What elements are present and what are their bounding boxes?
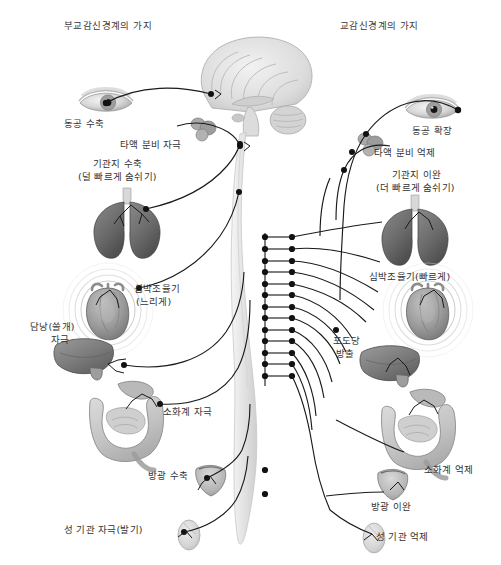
bladder-right-illustration bbox=[378, 469, 408, 500]
lungs-left-illustration bbox=[94, 188, 160, 258]
label-pupil-dilation: 동공 확장 bbox=[412, 125, 452, 138]
label-bronchi-relaxation-detail: (더 빠르게 숨쉬기) bbox=[376, 182, 455, 195]
label-bronchi-constriction-detail: (덜 빠르게 숨쉬기) bbox=[78, 171, 157, 184]
heading-sympathetic: 교감신경계의 가지 bbox=[340, 18, 419, 32]
label-bronchi-relaxation: 기관지 이완 bbox=[392, 169, 441, 182]
label-pacemaker-slow: 심박조율기 bbox=[134, 283, 180, 296]
label-sex-organ-stimulation: 성 기관 자극(발기) bbox=[64, 524, 143, 537]
label-gallbladder-stimulation: 담낭(쓸개) bbox=[30, 321, 75, 334]
label-pacemaker-slow-detail: (느리게) bbox=[136, 296, 171, 309]
label-salivation-stimulation: 타액 분비 자극 bbox=[120, 139, 182, 152]
brain-illustration bbox=[201, 37, 312, 136]
sympathetic-chain bbox=[262, 233, 295, 497]
label-sex-organ-inhibition: 성 기관 억제 bbox=[376, 531, 428, 544]
liver-right-illustration bbox=[360, 346, 420, 387]
label-bladder-relaxation: 방광 이완 bbox=[371, 501, 411, 514]
intestines-left-illustration bbox=[90, 381, 164, 470]
label-digestion-stimulation: 소화계 자극 bbox=[163, 406, 212, 419]
heart-right-illustration bbox=[406, 284, 448, 340]
label-bladder-contraction: 방광 수축 bbox=[148, 470, 188, 483]
lungs-right-illustration bbox=[382, 195, 448, 265]
salivary-gland-left-illustration bbox=[191, 118, 216, 141]
label-glucose-release-detail: 방출 bbox=[336, 348, 354, 361]
diagram-canvas: 부교감신경계의 가지 교감신경계의 가지 동공 수축 타액 분비 자극 기관지 … bbox=[0, 0, 501, 565]
label-bronchi-constriction: 기관지 수축 bbox=[93, 158, 142, 171]
label-digestion-inhibition: 소화계 억제 bbox=[424, 464, 473, 477]
label-pupil-constriction: 동공 수축 bbox=[64, 118, 104, 131]
heading-parasympathetic: 부교감신경계의 가지 bbox=[64, 18, 152, 32]
label-glucose-release: 포도당 bbox=[333, 335, 361, 348]
label-salivation-inhibition: 타액 분비 억제 bbox=[374, 147, 436, 160]
label-gallbladder-stimulation-detail: 자극 bbox=[51, 334, 69, 347]
label-pacemaker-fast: 심박조율기(빠르게) bbox=[369, 271, 450, 284]
